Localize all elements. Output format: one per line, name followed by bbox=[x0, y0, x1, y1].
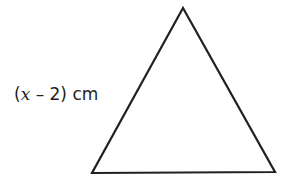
label-unit: cm bbox=[67, 84, 98, 104]
side-length-label: (x – 2) cm bbox=[14, 84, 98, 104]
label-variable: x bbox=[21, 84, 31, 104]
label-operator-constant: – 2) bbox=[30, 84, 67, 104]
label-open-paren: ( bbox=[14, 84, 21, 104]
triangle-diagram: (x – 2) cm bbox=[0, 0, 281, 180]
triangle-outline bbox=[92, 8, 275, 173]
